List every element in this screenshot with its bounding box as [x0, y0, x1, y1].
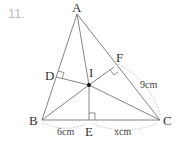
label-B: B — [29, 113, 38, 128]
right-angle-F — [110, 70, 118, 75]
problem-number: 11. — [8, 6, 25, 21]
label-E: E — [85, 124, 93, 139]
segment-CI — [89, 85, 160, 120]
label-I: I — [89, 65, 93, 80]
incenter-point — [87, 83, 91, 87]
measure-FC: 9cm — [140, 79, 157, 90]
label-F: F — [116, 50, 123, 65]
measure-BE: 6cm — [57, 126, 74, 137]
side-AB — [42, 14, 77, 120]
triangle-diagram: 11. A B C D E F I 6cm xcm 9cm — [0, 0, 182, 142]
segment-ID — [56, 77, 89, 85]
segment-AI — [77, 14, 89, 85]
label-A: A — [72, 0, 82, 15]
measure-EC: xcm — [114, 126, 131, 137]
label-D: D — [45, 68, 54, 83]
label-C: C — [163, 113, 172, 128]
arc-FC — [118, 64, 161, 117]
segment-BI — [42, 85, 89, 120]
right-angle-E — [89, 113, 95, 120]
